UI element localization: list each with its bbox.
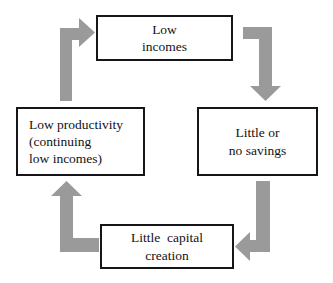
node-low-incomes[interactable]: Low incomes [96, 15, 233, 61]
arrow-low-incomes-to-no-savings [243, 27, 281, 101]
node-low-productivity[interactable]: Low productivity (continuing low incomes… [16, 107, 145, 176]
node-low-productivity-line3: low incomes) [18, 150, 102, 167]
arrow-capital-creation-to-low-productivity [51, 181, 99, 252]
diagram-canvas: Low incomes Little or no savings Little … [0, 0, 333, 283]
node-low-incomes-line1: Low [98, 21, 231, 38]
node-low-productivity-line1: Low productivity [18, 116, 123, 133]
arrow-low-productivity-to-low-incomes [60, 18, 95, 101]
node-no-savings[interactable]: Little or no savings [197, 107, 318, 176]
node-no-savings-line1: Little or [199, 124, 316, 141]
node-no-savings-line2: no savings [199, 142, 316, 159]
node-capital-creation-line1: Little capital [102, 229, 232, 246]
node-capital-creation[interactable]: Little capital creation [100, 224, 234, 269]
node-low-productivity-line2: (continuing [18, 133, 91, 150]
arrow-no-savings-to-capital-creation [235, 181, 270, 261]
node-capital-creation-line2: creation [102, 247, 232, 264]
node-low-incomes-line2: incomes [98, 38, 231, 55]
